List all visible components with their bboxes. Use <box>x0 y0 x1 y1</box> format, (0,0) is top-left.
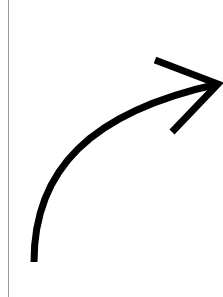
curved-arrow-up-right-icon <box>0 0 223 297</box>
image-canvas <box>0 0 223 297</box>
